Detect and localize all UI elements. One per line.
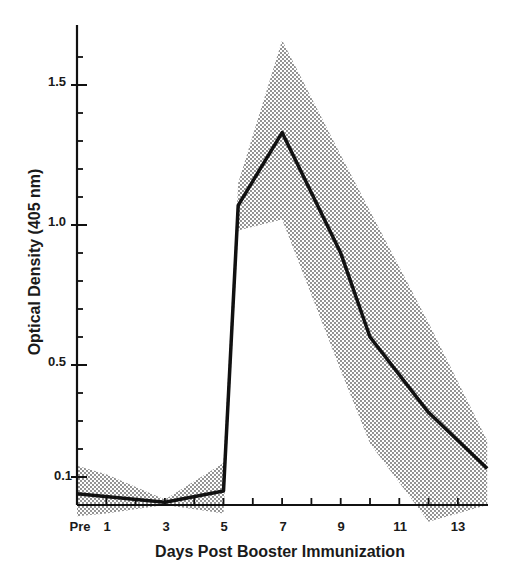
y-tick-1-5: 1.5	[48, 74, 66, 89]
x-tick-pre: Pre	[70, 519, 91, 534]
x-axis-title: Days Post Booster Immunization	[155, 543, 405, 560]
y-axis	[71, 25, 87, 505]
x-tick-11: 11	[393, 519, 407, 534]
y-axis-title: Optical Density (405 nm)	[26, 169, 43, 356]
x-tick-5: 5	[220, 519, 227, 534]
y-tick-0-1: 0.1	[54, 468, 72, 483]
x-tick-7: 7	[279, 519, 286, 534]
x-tick-9: 9	[337, 519, 344, 534]
range-band	[77, 40, 487, 522]
y-tick-labels: 1.5 1.0 0.5 0.1	[48, 74, 72, 483]
x-tick-3: 3	[162, 519, 169, 534]
y-tick-1-0: 1.0	[48, 214, 66, 229]
y-tick-0-5: 0.5	[48, 354, 66, 369]
line-chart: 1.5 1.0 0.5 0.1 Pre 1 3 5 7 9 11 13 Days…	[0, 0, 505, 577]
x-tick-labels: Pre 1 3 5 7 9 11 13	[70, 519, 466, 534]
x-tick-13: 13	[451, 519, 465, 534]
x-tick-1: 1	[103, 519, 110, 534]
